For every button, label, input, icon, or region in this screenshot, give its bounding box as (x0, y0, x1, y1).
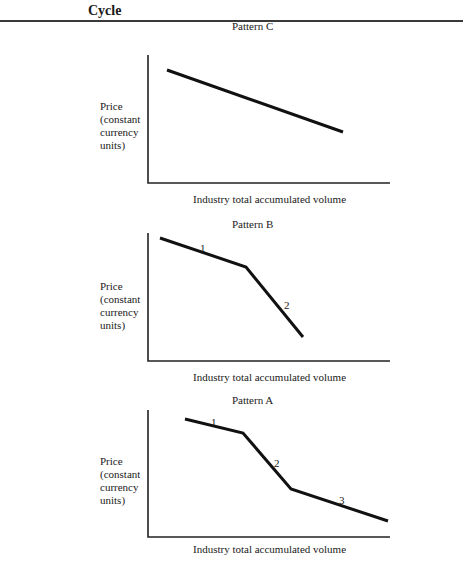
pattern-a-segment-1-label: 1 (211, 416, 217, 428)
pattern-b-segment-2-label: 2 (284, 299, 290, 311)
pattern-a-segment-2-label: 2 (274, 457, 280, 469)
y-label-line: currency (100, 481, 140, 494)
y-label-line: (constant (100, 468, 140, 481)
pattern-b-segment-1-label: 1 (200, 242, 206, 254)
figure-canvas (0, 0, 468, 567)
pattern-b-y-label: Price (constant currency units) (100, 280, 140, 332)
pattern-b-x-label: Industry total accumulated volume (193, 371, 346, 383)
pattern-c-title: Pattern C (232, 20, 273, 32)
pattern-a-chart (148, 410, 390, 537)
pattern-b-chart (148, 233, 390, 361)
y-label-line: currency (100, 126, 140, 139)
y-label-line: units) (100, 139, 140, 152)
y-label-line: Price (100, 455, 140, 468)
y-label-line: (constant (100, 293, 140, 306)
y-label-line: Price (100, 280, 140, 293)
y-label-line: units) (100, 494, 140, 507)
pattern-a-axes (148, 410, 390, 537)
pattern-c-axes (148, 55, 390, 183)
y-label-line: currency (100, 306, 140, 319)
pattern-a-price-line (185, 419, 388, 521)
pattern-c-y-label: Price (constant currency units) (100, 100, 140, 152)
pattern-c-x-label: Industry total accumulated volume (193, 193, 346, 205)
pattern-a-x-label: Industry total accumulated volume (193, 543, 346, 555)
pattern-a-segment-3-label: 3 (339, 494, 345, 506)
y-label-line: units) (100, 319, 140, 332)
pattern-c-chart (148, 55, 390, 183)
pattern-a-title: Pattern A (232, 394, 273, 406)
pattern-c-price-line (167, 70, 343, 132)
pattern-a-y-label: Price (constant currency units) (100, 455, 140, 507)
pattern-b-price-line (160, 238, 303, 337)
y-label-line: Price (100, 100, 140, 113)
pattern-b-title: Pattern B (232, 218, 273, 230)
y-label-line: (constant (100, 113, 140, 126)
